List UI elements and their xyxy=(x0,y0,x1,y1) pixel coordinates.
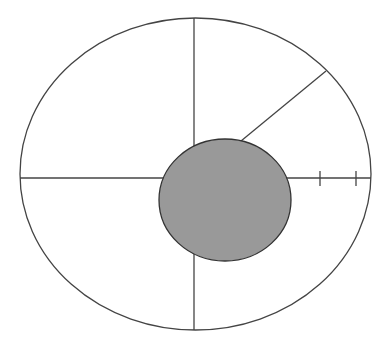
inner-grey-disc xyxy=(159,139,291,261)
ellipse-sector-diagram xyxy=(0,0,386,347)
diagonal-divider-line xyxy=(241,71,326,141)
